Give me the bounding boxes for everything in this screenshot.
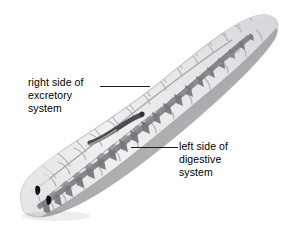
callout-digestive-label: left side of digestive system xyxy=(179,140,228,179)
planarian-anatomy-figure: right side of excretory system left side… xyxy=(0,0,292,229)
callout-excretory-line-3: system xyxy=(28,102,84,115)
leader-line-digestive xyxy=(131,147,178,148)
callout-digestive-line-3: system xyxy=(179,166,228,179)
callout-excretory-line-2: excretory xyxy=(28,89,84,102)
leader-line-excretory xyxy=(100,86,150,87)
drop-shadow xyxy=(22,211,90,221)
callout-digestive-line-1: left side of xyxy=(179,140,228,153)
callout-excretory-label: right side of excretory system xyxy=(28,76,84,115)
callout-digestive-line-2: digestive xyxy=(179,153,228,166)
callout-excretory-line-1: right side of xyxy=(28,76,84,89)
